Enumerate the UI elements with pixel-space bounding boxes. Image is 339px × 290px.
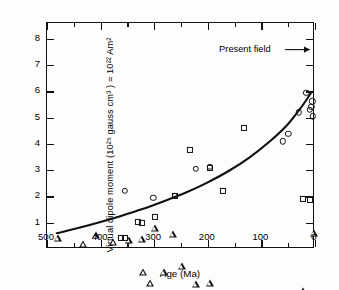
present-field-arrow bbox=[0, 0, 339, 290]
x-axis-tick-label: 500 bbox=[38, 232, 54, 242]
figure-container: Virtual dipole moment (10²⁵ gauss cm³ ) … bbox=[0, 0, 339, 290]
y-axis-tick-label: 6 bbox=[0, 86, 40, 96]
y-axis-tick-label: 2 bbox=[0, 191, 40, 201]
y-axis-tick-label: 5 bbox=[0, 112, 40, 122]
x-axis-tick-label: 300 bbox=[145, 232, 161, 242]
arrow-head bbox=[304, 46, 310, 52]
x-axis-tick-label: 400 bbox=[92, 232, 108, 242]
x-axis-tick-label: 100 bbox=[252, 232, 268, 242]
y-axis-tick-label: 1 bbox=[0, 217, 40, 227]
x-axis-tick-label: 0 bbox=[311, 232, 316, 242]
annotation-layer: Present field bbox=[0, 0, 339, 290]
y-axis-tick-label: 8 bbox=[0, 33, 40, 43]
y-axis-tick-label: 3 bbox=[0, 164, 40, 174]
y-axis-tick-label: 4 bbox=[0, 138, 40, 148]
x-axis-tick-label: 200 bbox=[199, 232, 215, 242]
y-axis-tick-label: 7 bbox=[0, 59, 40, 69]
